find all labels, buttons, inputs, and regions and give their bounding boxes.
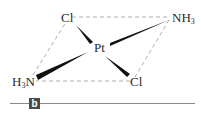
bond-pt-cl-top — [76, 25, 93, 44]
atom-nh3-top-right: NH3 — [172, 11, 195, 26]
atom-cl-bottom-right: Cl — [130, 75, 142, 88]
atom-pt-center: Pt — [94, 41, 105, 54]
atom-subscript: 3 — [191, 17, 195, 26]
bond-pt-h3n — [36, 52, 88, 80]
atom-symbol: Pt — [94, 40, 105, 55]
bond-pt-nh3 — [110, 20, 169, 46]
atom-h3n-bottom-left: H3N — [12, 75, 35, 90]
atom-symbol: H — [12, 74, 21, 89]
panel-label-row: b — [10, 98, 195, 110]
atom-symbol: NH — [172, 10, 191, 25]
atom-cl-top-left: Cl — [61, 11, 73, 24]
bond-pt-cl-bottom — [105, 56, 130, 77]
atom-symbol: Cl — [61, 10, 73, 25]
atom-symbol: Cl — [130, 74, 142, 89]
atom-symbol: N — [25, 74, 34, 89]
panel-label: b — [29, 98, 40, 109]
